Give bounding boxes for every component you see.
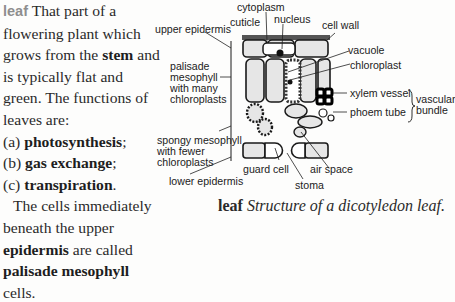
label-air-space: air space bbox=[310, 164, 353, 175]
chloroplast bbox=[288, 80, 293, 85]
label-chloroplast: chloroplast bbox=[350, 60, 401, 71]
label-phloem-tube: phoem tube bbox=[350, 107, 406, 118]
label-spongy-3: chloroplasts bbox=[157, 157, 214, 168]
label-cell-wall: cell wall bbox=[322, 20, 359, 31]
paragraph-text-2: are called bbox=[73, 241, 133, 258]
phloem-cell bbox=[328, 115, 334, 121]
caption-headword: leaf bbox=[218, 197, 243, 214]
figure-caption: leaf Structure of a dicotyledon leaf. bbox=[218, 197, 445, 215]
guard-cells bbox=[265, 143, 305, 158]
term-epidermis: epidermis bbox=[3, 241, 69, 258]
phloem-tube bbox=[319, 109, 327, 117]
spongy-mesophyll bbox=[247, 104, 322, 137]
paragraph-text-3: cells. bbox=[3, 284, 35, 301]
label-cuticle: cuticle bbox=[230, 17, 260, 28]
term-palisade-mesophyll: palisade mesophyll bbox=[3, 262, 129, 279]
nucleus bbox=[277, 50, 284, 57]
label-vascular-2: bundle bbox=[416, 105, 448, 116]
label-cytoplasm: cytoplasm bbox=[237, 2, 285, 13]
xylem-vessel bbox=[317, 89, 332, 104]
caption-text: Structure of a dicotyledon leaf. bbox=[247, 197, 445, 214]
label-guard-cell: guard cell bbox=[243, 164, 289, 175]
label-xylem-vessel: xylem vessel bbox=[350, 88, 411, 99]
label-upper-epidermis: upper epidermis bbox=[155, 24, 231, 35]
label-lower-epidermis: lower epidermis bbox=[169, 176, 243, 187]
label-palisade-4: chloroplasts bbox=[170, 94, 227, 105]
label-nucleus: nucleus bbox=[274, 14, 311, 25]
label-vacuole: vacuole bbox=[348, 45, 385, 56]
label-stoma: stoma bbox=[295, 180, 324, 191]
